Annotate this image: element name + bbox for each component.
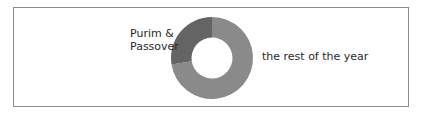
label-purim-line2: Passover xyxy=(130,40,190,53)
label-rest-of-year: the rest of the year xyxy=(262,50,368,63)
label-purim-line1: Purim & xyxy=(130,27,190,40)
label-purim-passover: Purim & Passover xyxy=(130,27,190,53)
